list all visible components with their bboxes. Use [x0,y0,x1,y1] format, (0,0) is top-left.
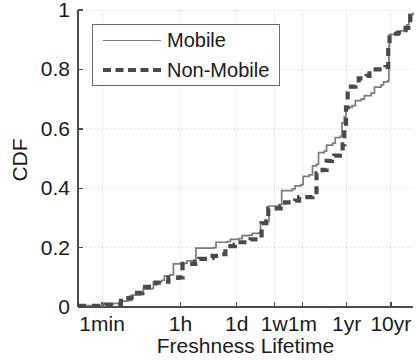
legend-line-sample-dashed [103,68,161,75]
legend-entry-non-mobile: Non-Mobile [93,55,281,86]
y-tick-label: 0.2 [10,237,70,258]
legend-label-mobile: Mobile [167,29,226,51]
legend: Mobile Non-Mobile [92,24,280,86]
x-tick-label: 10yr [356,313,417,334]
y-tick-label: 0.8 [10,58,70,79]
y-axis-label: CDF [8,120,32,200]
legend-line-sample-solid [103,40,161,44]
legend-entry-mobile: Mobile [93,25,281,56]
legend-label-non-mobile: Non-Mobile [167,59,269,81]
x-tick-label: 1min [67,313,137,334]
chart-figure: 00.20.40.60.81 1min1h1d1w1m1yr10yr CDF F… [0,0,417,360]
y-tick-label: 1 [10,0,70,20]
x-axis-label: Freshness Lifetime [78,334,413,358]
y-tick-label: 0 [10,296,70,317]
